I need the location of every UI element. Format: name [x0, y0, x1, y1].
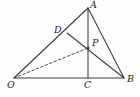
- vertex-label-o: O: [7, 80, 15, 90]
- vertex-label-a: A: [90, 0, 97, 10]
- vertex-label-p: P: [92, 38, 98, 48]
- geometry-canvas: [0, 0, 140, 97]
- vertex-label-d: D: [54, 25, 62, 35]
- vertex-label-b: B: [127, 74, 134, 84]
- segment-OA: [14, 8, 88, 78]
- vertex-label-c: C: [84, 80, 91, 90]
- segment-OP: [14, 48, 88, 78]
- geometry-figure: ADPOCB: [0, 0, 140, 97]
- point-marker-P: [87, 47, 90, 50]
